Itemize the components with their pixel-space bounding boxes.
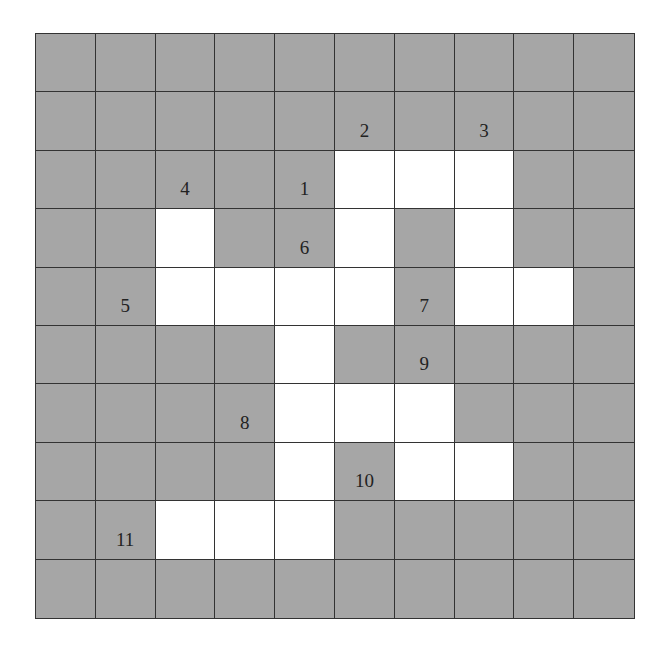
answer-cell[interactable] [455,209,515,267]
block-cell [156,560,216,618]
block-cell [514,34,574,92]
block-cell [156,384,216,442]
clue-number: 9 [395,353,454,375]
answer-cell[interactable] [215,501,275,559]
block-cell: 8 [215,384,275,442]
block-cell [455,560,515,618]
answer-cell[interactable] [395,384,455,442]
clue-number: 4 [156,178,215,200]
clue-number: 8 [215,412,274,434]
answer-cell[interactable] [275,501,335,559]
block-cell: 4 [156,151,216,209]
clue-number: 2 [335,120,394,142]
block-cell [96,34,156,92]
block-cell [574,560,634,618]
answer-cell[interactable] [156,268,216,326]
block-cell [156,326,216,384]
block-cell [514,326,574,384]
answer-cell[interactable] [455,443,515,501]
block-cell [156,92,216,150]
clue-number: 6 [275,237,334,259]
block-cell [455,384,515,442]
clue-number: 5 [96,295,155,317]
answer-cell[interactable] [275,268,335,326]
block-cell: 10 [335,443,395,501]
block-cell [275,34,335,92]
answer-cell[interactable] [335,209,395,267]
block-cell [96,326,156,384]
answer-cell[interactable] [156,501,216,559]
block-cell [36,560,96,618]
answer-cell[interactable] [215,268,275,326]
block-cell [395,209,455,267]
block-cell [514,92,574,150]
answer-cell[interactable] [455,151,515,209]
block-cell [36,92,96,150]
answer-cell[interactable] [514,268,574,326]
block-cell [455,34,515,92]
answer-cell[interactable] [455,268,515,326]
clue-number: 10 [335,470,394,492]
block-cell [395,34,455,92]
answer-cell[interactable] [335,268,395,326]
answer-cell[interactable] [275,443,335,501]
block-cell [215,151,275,209]
block-cell [215,443,275,501]
block-cell [335,501,395,559]
block-cell [335,560,395,618]
answer-cell[interactable] [335,151,395,209]
answer-cell[interactable] [275,326,335,384]
block-cell [96,209,156,267]
clue-number: 7 [395,295,454,317]
block-cell: 11 [96,501,156,559]
block-cell [335,326,395,384]
block-cell [514,501,574,559]
block-cell [574,92,634,150]
block-cell: 9 [395,326,455,384]
block-cell [36,326,96,384]
block-cell: 6 [275,209,335,267]
block-cell [36,34,96,92]
block-cell [36,384,96,442]
block-cell [36,501,96,559]
block-cell [395,501,455,559]
answer-cell[interactable] [395,151,455,209]
block-cell [574,268,634,326]
block-cell: 5 [96,268,156,326]
block-cell [215,326,275,384]
answer-cell[interactable] [156,209,216,267]
block-cell [36,209,96,267]
block-cell [514,209,574,267]
clue-number: 3 [455,120,514,142]
crossword-grid: 2341657981011 [35,33,635,619]
block-cell [96,384,156,442]
answer-cell[interactable] [335,384,395,442]
block-cell [275,560,335,618]
block-cell: 1 [275,151,335,209]
block-cell [514,443,574,501]
block-cell [574,34,634,92]
block-cell [36,151,96,209]
block-cell [395,92,455,150]
block-cell [574,151,634,209]
block-cell [96,443,156,501]
block-cell [96,92,156,150]
block-cell [455,326,515,384]
block-cell [36,268,96,326]
block-cell [215,34,275,92]
answer-cell[interactable] [395,443,455,501]
block-cell [96,560,156,618]
answer-cell[interactable] [275,384,335,442]
clue-number: 11 [96,529,155,551]
block-cell [395,560,455,618]
block-cell [574,384,634,442]
block-cell [96,151,156,209]
block-cell: 7 [395,268,455,326]
block-cell [156,34,216,92]
block-cell [36,443,96,501]
block-cell [215,209,275,267]
block-cell [574,501,634,559]
block-cell [514,384,574,442]
block-cell [275,92,335,150]
block-cell [215,92,275,150]
